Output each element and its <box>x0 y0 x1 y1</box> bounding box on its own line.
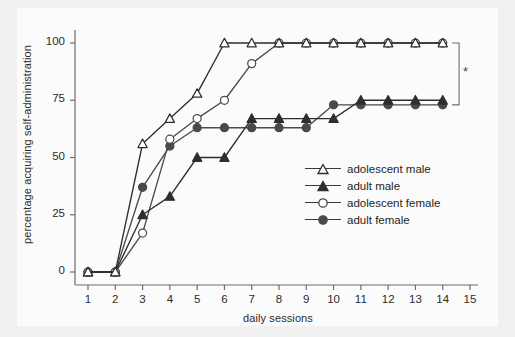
y-tick-label: 0 <box>31 264 65 276</box>
legend-item[interactable]: adult male <box>303 177 488 194</box>
x-tick-label: 14 <box>432 293 454 305</box>
x-tick-label: 1 <box>77 293 99 305</box>
x-tick-label: 15 <box>459 293 481 305</box>
x-tick-label: 6 <box>213 293 235 305</box>
x-tick-label: 7 <box>241 293 263 305</box>
x-tick-label: 8 <box>268 293 290 305</box>
legend-item[interactable]: adolescent male <box>303 160 488 177</box>
figure-container: percentage acquiring self-administration… <box>0 0 515 337</box>
x-tick-label: 9 <box>295 293 317 305</box>
legend-label: adolescent female <box>343 197 440 209</box>
x-tick-label: 4 <box>159 293 181 305</box>
x-tick-label: 13 <box>404 293 426 305</box>
legend-item[interactable]: adolescent female <box>303 194 488 211</box>
series-adolescent-female <box>84 39 447 276</box>
y-tick-label: 75 <box>31 92 65 104</box>
legend-label: adult female <box>343 214 410 226</box>
significance-bracket <box>452 43 459 105</box>
legend-marker-adolescent-female <box>303 194 343 211</box>
legend-label: adolescent male <box>343 163 431 175</box>
x-tick-label: 5 <box>186 293 208 305</box>
legend-marker-adult-female <box>303 211 343 228</box>
x-tick-label: 3 <box>132 293 154 305</box>
legend-label: adult male <box>343 180 400 192</box>
x-tick-label: 12 <box>377 293 399 305</box>
x-tick-label: 11 <box>350 293 372 305</box>
y-tick-label: 25 <box>31 207 65 219</box>
x-tick-label: 10 <box>323 293 345 305</box>
y-tick-label: 100 <box>31 35 65 47</box>
x-tick-label: 2 <box>104 293 126 305</box>
legend-item[interactable]: adult female <box>303 211 488 228</box>
y-tick-label: 50 <box>31 150 65 162</box>
chart-legend: adolescent male adult male adolescent fe… <box>303 160 488 228</box>
significance-asterisk: * <box>463 65 468 78</box>
legend-marker-adolescent-male <box>303 160 343 177</box>
x-axis-title: daily sessions <box>188 312 368 324</box>
legend-marker-adult-male <box>303 177 343 194</box>
